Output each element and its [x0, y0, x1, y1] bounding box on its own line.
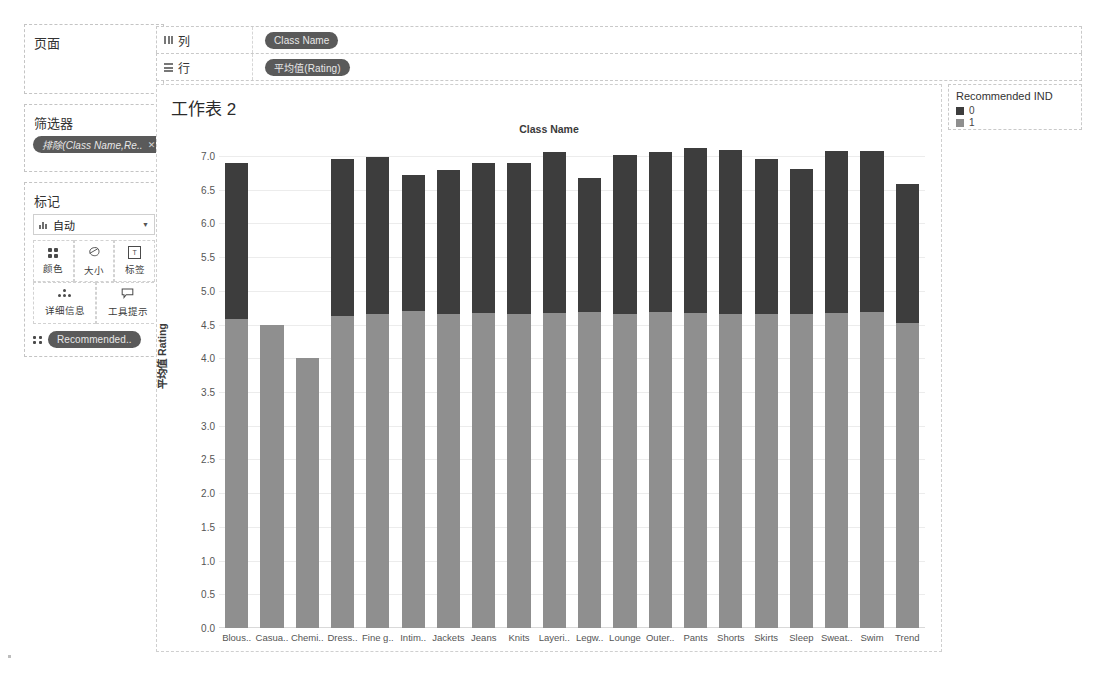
- marks-size-button[interactable]: 大小: [74, 240, 115, 282]
- bar-segment[interactable]: [543, 152, 566, 313]
- x-axis-tick-label: Pants: [678, 632, 713, 643]
- bar-column[interactable]: [225, 156, 248, 628]
- bar-segment[interactable]: [331, 159, 354, 316]
- bar-segment[interactable]: [825, 151, 848, 314]
- bar-segment[interactable]: [860, 312, 883, 628]
- bar-column[interactable]: [366, 156, 389, 628]
- bar-segment[interactable]: [507, 314, 530, 628]
- bar-segment[interactable]: [437, 170, 460, 314]
- bar-segment[interactable]: [402, 311, 425, 628]
- bar-column[interactable]: [613, 156, 636, 628]
- rows-shelf[interactable]: 行 平均值(Rating): [156, 53, 1082, 81]
- pill-class-name[interactable]: Class Name: [265, 32, 338, 49]
- rows-shelf-drop[interactable]: 平均值(Rating): [253, 59, 350, 76]
- bar-column[interactable]: [860, 156, 883, 628]
- filter-pill-class-name[interactable]: 排除(Class Name,Re.. ✕: [33, 136, 164, 153]
- gridline: [219, 459, 925, 460]
- bar-segment[interactable]: [366, 157, 389, 315]
- bar-segment[interactable]: [790, 169, 813, 315]
- legend-item[interactable]: 0: [956, 105, 1074, 116]
- bar-segment[interactable]: [507, 163, 530, 315]
- y-axis-tick-label: 3.5: [201, 387, 215, 398]
- y-axis-tick-label: 7.0: [201, 151, 215, 162]
- bar-column[interactable]: [437, 156, 460, 628]
- marks-color-pill[interactable]: Recommended..: [48, 331, 141, 348]
- bar-segment[interactable]: [860, 151, 883, 312]
- pill-avg-rating[interactable]: 平均值(Rating): [265, 59, 350, 76]
- legend-item[interactable]: 1: [956, 117, 1074, 128]
- x-axis-tick-label: Blous..: [219, 632, 254, 643]
- bar-column[interactable]: [755, 156, 778, 628]
- bar-segment[interactable]: [755, 159, 778, 313]
- bar-segment[interactable]: [613, 314, 636, 628]
- bar-segment[interactable]: [472, 313, 495, 628]
- x-axis-tick-label: Knits: [501, 632, 536, 643]
- bar-column[interactable]: [402, 156, 425, 628]
- bar-segment[interactable]: [649, 152, 672, 312]
- gridline: [219, 358, 925, 359]
- marks-detail-button[interactable]: 详细信息: [33, 282, 96, 324]
- bar-segment[interactable]: [896, 323, 919, 628]
- bar-column[interactable]: [649, 156, 672, 628]
- bar-column[interactable]: [543, 156, 566, 628]
- y-axis-tick-label: 6.0: [201, 218, 215, 229]
- bar-segment[interactable]: [402, 175, 425, 311]
- bar-segment[interactable]: [437, 314, 460, 628]
- bar-segment[interactable]: [684, 313, 707, 628]
- close-icon[interactable]: ✕: [148, 140, 156, 150]
- x-axis-tick-label: Intim..: [396, 632, 431, 643]
- y-axis-tick-label: 5.5: [201, 252, 215, 263]
- bar-column[interactable]: [719, 156, 742, 628]
- tooltip-icon: [121, 288, 134, 301]
- bar-segment[interactable]: [296, 358, 319, 628]
- bar-column[interactable]: [684, 156, 707, 628]
- bar-segment[interactable]: [225, 319, 248, 628]
- x-axis-tick-label: Skirts: [749, 632, 784, 643]
- bar-column[interactable]: [260, 156, 283, 628]
- bar-segment[interactable]: [719, 314, 742, 628]
- bar-chart-icon: [39, 221, 48, 229]
- marks-label-button[interactable]: T 标签: [114, 240, 155, 282]
- marks-color-button[interactable]: 颜色: [33, 240, 74, 282]
- bar-segment[interactable]: [684, 148, 707, 313]
- gridline: [219, 392, 925, 393]
- bar-column[interactable]: [790, 156, 813, 628]
- bar-segment[interactable]: [896, 184, 919, 323]
- rows-shelf-name: 行: [157, 54, 253, 80]
- columns-shelf-drop[interactable]: Class Name: [253, 32, 338, 49]
- bar-segment[interactable]: [825, 313, 848, 628]
- filters-title: 筛选器: [34, 113, 155, 132]
- y-axis: 0.00.51.01.52.02.53.03.54.04.55.05.56.06…: [179, 156, 219, 628]
- bar-segment[interactable]: [260, 325, 283, 628]
- bar-column[interactable]: [896, 156, 919, 628]
- bar-segment[interactable]: [225, 163, 248, 319]
- bar-column[interactable]: [331, 156, 354, 628]
- x-axis-tick-label: Dress..: [325, 632, 360, 643]
- bar-segment[interactable]: [755, 314, 778, 628]
- bar-segment[interactable]: [472, 163, 495, 313]
- bar-column[interactable]: [296, 156, 319, 628]
- bar-segment[interactable]: [543, 313, 566, 628]
- bar-column[interactable]: [507, 156, 530, 628]
- bar-column[interactable]: [472, 156, 495, 628]
- y-axis-tick-label: 3.0: [201, 420, 215, 431]
- columns-shelf[interactable]: 列 Class Name: [156, 26, 1082, 53]
- bar-segment[interactable]: [790, 314, 813, 628]
- bar-column[interactable]: [578, 156, 601, 628]
- bar-segment[interactable]: [578, 312, 601, 628]
- bar-segment[interactable]: [649, 312, 672, 628]
- marks-tooltip-button[interactable]: 工具提示: [96, 282, 159, 324]
- bar-segment[interactable]: [578, 178, 601, 312]
- mark-type-dropdown[interactable]: 自动 ▼: [33, 214, 155, 235]
- bar-segment[interactable]: [719, 150, 742, 314]
- pages-title: 页面: [34, 33, 155, 52]
- rows-shelf-label: 行: [178, 59, 190, 76]
- bar-segment[interactable]: [366, 314, 389, 628]
- chevron-down-icon[interactable]: ▼: [142, 221, 149, 228]
- bar-segment[interactable]: [331, 316, 354, 628]
- bar-segment[interactable]: [613, 155, 636, 313]
- bar-column[interactable]: [825, 156, 848, 628]
- x-axis-tick-label: Jeans: [466, 632, 501, 643]
- x-axis-tick-label: Trend: [890, 632, 925, 643]
- plot-area[interactable]: Blous..Casua..Chemi..Dress..Fine g..Inti…: [219, 156, 925, 628]
